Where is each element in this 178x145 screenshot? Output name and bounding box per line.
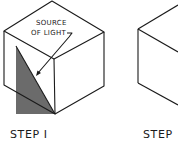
step-1-caption: STEP I bbox=[10, 128, 48, 141]
figure-canvas: SOURCE OF LIGHT STEP I STEP bbox=[0, 0, 178, 145]
callout-line-1: SOURCE bbox=[36, 19, 67, 27]
step-1-cube: SOURCE OF LIGHT bbox=[4, 1, 104, 114]
arrowhead-icon bbox=[36, 71, 41, 77]
step-2-caption: STEP bbox=[143, 128, 173, 141]
cube-bottom-left-edge bbox=[138, 83, 178, 105]
step-2-cube bbox=[138, 5, 178, 105]
cube-top-inner-edge bbox=[138, 29, 178, 52]
cube-top-left-edge bbox=[138, 5, 178, 29]
callout-line-2: OF LIGHT bbox=[31, 29, 67, 37]
